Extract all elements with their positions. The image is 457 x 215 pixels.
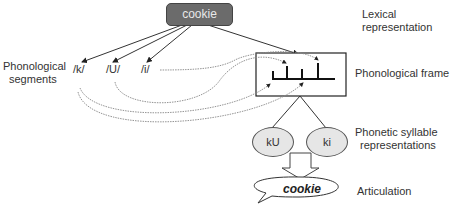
- segment-k: /k/: [73, 63, 85, 75]
- frame-to-syllable-lines: [272, 96, 326, 128]
- label-lexical-representation: Lexical representation: [362, 8, 457, 34]
- lexical-node-cookie: cookie: [166, 3, 233, 26]
- label-phonetic-syllable-line2: representations: [360, 139, 436, 152]
- syllable-ki: ki: [306, 127, 348, 157]
- label-phonological-segments-line2: segments: [9, 73, 57, 86]
- label-phonological-frame: Phonological frame: [355, 67, 449, 80]
- label-phonological-segments-line1: Phonological: [3, 60, 66, 73]
- label-articulation: Articulation: [357, 185, 411, 198]
- segment-i: /i/: [141, 63, 150, 75]
- articulation-word: cookie: [266, 182, 338, 196]
- down-block-arrow: [282, 153, 319, 179]
- label-phonetic-syllable-line1: Phonetic syllable: [355, 126, 438, 139]
- syllable-kU: kU: [252, 127, 294, 157]
- segment-U: /U/: [106, 63, 120, 75]
